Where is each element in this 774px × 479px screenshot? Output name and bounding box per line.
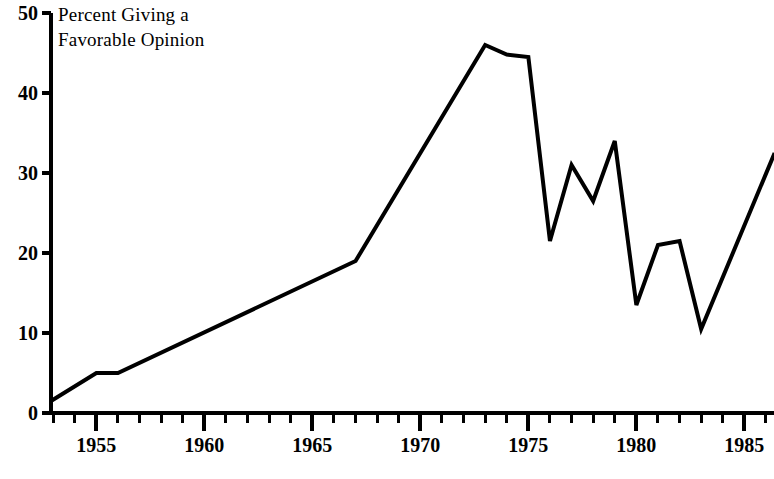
y-tick-label: 40 [0,82,38,105]
x-tick-label: 1975 [493,434,563,457]
series-line [51,45,774,401]
x-tick-label: 1965 [277,434,347,457]
data-series [51,45,774,401]
chart-container: Percent Giving a Favorable Opinion 01020… [0,0,774,479]
y-tick-label: 30 [0,162,38,185]
x-tick-label: 1955 [61,434,131,457]
y-tick-label: 20 [0,242,38,265]
x-tick-label: 1970 [385,434,455,457]
y-tick-label: 50 [0,2,38,25]
x-tick-label: 1985 [709,434,774,457]
y-tick-label: 10 [0,322,38,345]
y-tick-label: 0 [0,402,38,425]
x-tick-label: 1960 [169,434,239,457]
tick-marks [42,13,766,431]
x-tick-label: 1980 [601,434,671,457]
plot-area [0,0,774,479]
